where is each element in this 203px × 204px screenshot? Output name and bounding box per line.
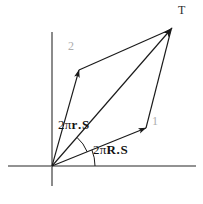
angle-small-prefix: 2π [58, 117, 71, 132]
angle-label-two-pi-r-dot-s: 2πr.S [58, 118, 89, 131]
vector-label-1: 1 [152, 115, 158, 127]
angle-arc-small [77, 137, 87, 152]
angle-small-vector-s: S [82, 117, 89, 132]
vector-parallelogram-diagram: 2 1 T 2πr.S 2πR.S [0, 0, 203, 204]
angle-large-vector-R: R [106, 142, 116, 157]
angle-large-prefix: 2π [93, 142, 106, 157]
vector-label-2: 2 [68, 40, 74, 52]
edge-vector2-to-T [79, 30, 171, 71]
point-label-t: T [178, 4, 185, 16]
diagram-canvas [0, 0, 203, 204]
edge-vector1-to-T [146, 30, 171, 128]
angle-label-two-pi-R-dot-s: 2πR.S [93, 143, 128, 156]
angle-large-vector-s: S [121, 142, 128, 157]
